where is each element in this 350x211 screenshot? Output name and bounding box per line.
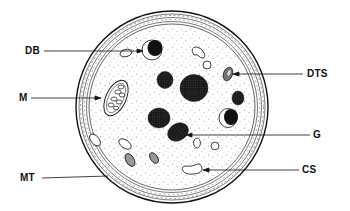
cell-diagram <box>0 0 350 211</box>
label-canalicular-system: CS <box>302 165 316 175</box>
label-mitochondrion: M <box>19 93 28 103</box>
label-dense-tubular-system: DTS <box>307 69 328 79</box>
label-microtubules: MT <box>20 173 35 183</box>
label-dense-body: DB <box>25 46 40 56</box>
dense-body <box>142 40 163 60</box>
label-granule: G <box>313 130 321 140</box>
